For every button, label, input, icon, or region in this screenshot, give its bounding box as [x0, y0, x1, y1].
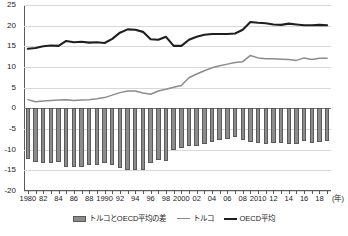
y-axis-tick-label: 0 [0, 104, 16, 112]
x-axis-tick [220, 191, 221, 194]
x-axis-tick [128, 191, 129, 194]
gridline--20 [24, 191, 331, 192]
line-turkey [28, 55, 327, 101]
x-axis-tick [235, 191, 236, 194]
y-axis-tick-label: 15 [0, 42, 16, 50]
x-axis-tick [296, 191, 297, 194]
y-axis-tick-label: -20 [0, 187, 16, 195]
line-oecd-average [28, 22, 327, 49]
x-axis-tick [51, 191, 52, 194]
chart-legend: トルコとOECD平均の差 トルコ OECD平均 [0, 214, 348, 223]
legend-bar-swatch-icon [73, 216, 86, 222]
legend-line-swatch-icon [177, 218, 190, 219]
legend-item-turkey[interactable]: トルコ [177, 214, 214, 223]
chart-container: 2520151050-5-10-15-20 198082848688199092… [0, 0, 348, 236]
legend-label-oecd-average: OECD平均 [240, 214, 276, 223]
y-axis-tick-label: -10 [0, 146, 16, 154]
y-axis-tick-label: 25 [0, 1, 16, 9]
x-axis-tick [158, 191, 159, 194]
x-axis-unit-label: (年) [332, 195, 344, 203]
legend-label-difference: トルコとOECD平均の差 [89, 214, 167, 223]
legend-label-turkey: トルコ [193, 214, 214, 223]
legend-item-oecd-average[interactable]: OECD平均 [224, 214, 276, 223]
y-axis-tick-label: 10 [0, 63, 16, 71]
legend-line-dark-swatch-icon [224, 218, 237, 220]
x-axis-tick [327, 191, 328, 194]
line-series-layer [24, 5, 331, 191]
x-axis-tick [143, 191, 144, 194]
x-axis-tick [82, 191, 83, 194]
x-axis-tick-label: 18 [307, 195, 331, 203]
y-axis-tick-label: -15 [0, 166, 16, 174]
y-axis-tick-label: 20 [0, 22, 16, 30]
x-axis-tick [312, 191, 313, 194]
x-axis-tick [66, 191, 67, 194]
x-axis-tick [281, 191, 282, 194]
plot-area [24, 5, 331, 191]
y-axis-tick-label: 5 [0, 84, 16, 92]
legend-item-difference[interactable]: トルコとOECD平均の差 [73, 214, 167, 223]
x-axis-tick [204, 191, 205, 194]
y-axis-tick-label: -5 [0, 125, 16, 133]
